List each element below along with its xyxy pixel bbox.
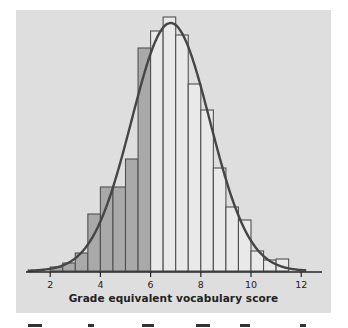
histogram-chart: 24681012 <box>0 0 348 328</box>
x-tick-label: 10 <box>245 279 257 290</box>
histogram-bar <box>138 48 151 271</box>
histogram-bar <box>151 31 164 271</box>
histogram-bars <box>50 17 288 271</box>
x-axis-ticks: 24681012 <box>47 272 307 290</box>
histogram-bar <box>163 17 176 271</box>
x-tick-label: 2 <box>47 279 53 290</box>
x-tick-label: 6 <box>148 279 154 290</box>
caption-fragment <box>240 324 250 327</box>
caption-fragment <box>28 324 42 327</box>
histogram-bar <box>100 187 113 271</box>
histogram-bar <box>226 207 239 271</box>
histogram-bar <box>213 168 226 271</box>
histogram-bar <box>176 35 189 271</box>
histogram-bar <box>201 110 214 271</box>
x-axis-label: Grade equivalent vocabulary score <box>16 292 331 304</box>
x-tick-label: 8 <box>198 279 204 290</box>
histogram-bar <box>113 187 126 271</box>
x-tick-label: 4 <box>97 279 103 290</box>
x-tick-label: 12 <box>295 279 307 290</box>
caption-fragment <box>300 324 306 327</box>
caption-fragment <box>142 324 154 327</box>
histogram-bar <box>188 84 201 271</box>
histogram-bar <box>126 159 139 271</box>
caption-fragment <box>88 324 94 327</box>
caption-fragment <box>196 324 210 327</box>
